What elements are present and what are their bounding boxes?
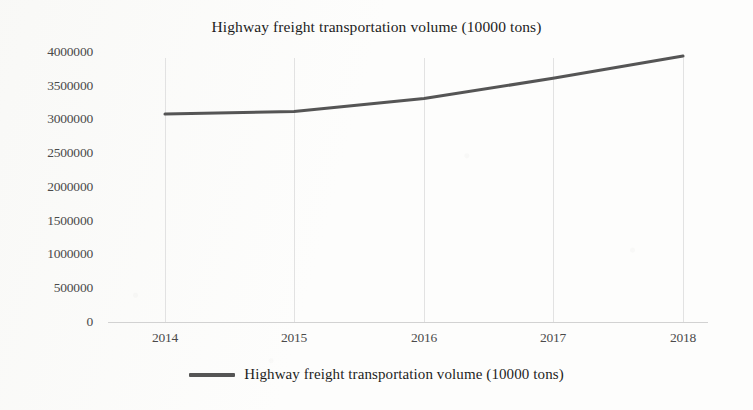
chart-figure: Highway freight transportation volume (1… bbox=[0, 0, 753, 410]
legend-line-swatch bbox=[189, 373, 235, 377]
x-axis-tick-label: 2016 bbox=[379, 330, 469, 346]
x-axis-tick-label: 2015 bbox=[249, 330, 339, 346]
chart-legend: Highway freight transportation volume (1… bbox=[0, 366, 753, 383]
legend-label: Highway freight transportation volume (1… bbox=[244, 366, 564, 383]
x-axis-tick-label: 2018 bbox=[638, 330, 728, 346]
x-axis-tick-label: 2014 bbox=[120, 330, 210, 346]
data-line-series bbox=[0, 0, 753, 410]
x-axis-tick-label: 2017 bbox=[508, 330, 598, 346]
